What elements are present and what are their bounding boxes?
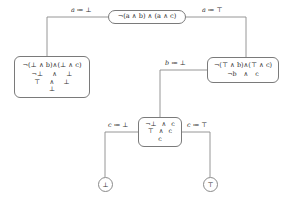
- node-a-true-step1: ¬b ∧ c: [227, 71, 259, 79]
- node-a-false-result: ⊥: [49, 86, 55, 94]
- edge-label-b-false-value: ⊥: [180, 59, 186, 67]
- node-a-false[interactable]: ¬(⊥ ∧ b)∧(⊥ ∧ c) ¬⊥ ∧ ⊥ ⊤ ∧ ⊥ ⊥: [14, 56, 90, 98]
- node-b-false[interactable]: ¬⊥ ∧ c ⊤ ∧ c c: [138, 117, 182, 147]
- terminal-true-label: ⊤: [207, 181, 213, 189]
- node-a-true-formula: ¬(⊤ ∧ b)∧(⊤ ∧ c): [214, 62, 272, 70]
- node-a-false-formula: ¬(⊥ ∧ b)∧(⊥ ∧ c): [23, 62, 82, 70]
- edge-label-c-false-op: ≔: [112, 121, 123, 129]
- edge-label-b-false: b ≔ ⊥: [165, 59, 186, 67]
- edge-label-c-true-op: ≔: [191, 121, 202, 129]
- edge-label-c-false-value: ⊥: [122, 121, 128, 129]
- edge-root-to-left: [47, 17, 108, 56]
- b-false-l2: ⊤: [148, 128, 154, 136]
- edge-layer: [0, 0, 291, 202]
- terminal-true[interactable]: ⊤: [203, 177, 218, 192]
- b-false-r2: c: [169, 128, 173, 136]
- node-root[interactable]: ¬(a ∧ b) ∧ (a ∧ c): [108, 10, 186, 24]
- a-true-left: ¬b: [227, 71, 236, 79]
- edge-root-to-right: [186, 17, 246, 57]
- step2-right: ⊥: [63, 79, 69, 87]
- edge-label-c-true-value: ⊤: [201, 121, 207, 129]
- edge-label-a-true: a ≔ ⊤: [202, 6, 223, 14]
- edge-label-a-false-op: ≔: [75, 6, 86, 14]
- edge-label-c-false: c ≔ ⊥: [108, 121, 128, 129]
- a-true-op: ∧: [244, 71, 249, 79]
- edge-label-a-true-value: ⊤: [216, 6, 222, 14]
- edge-right-to-mid: [160, 70, 207, 117]
- edge-label-c-true: c ≔ ⊤: [187, 121, 207, 129]
- terminal-false-label: ⊥: [102, 181, 108, 189]
- node-root-formula: ¬(a ∧ b) ∧ (a ∧ c): [118, 13, 177, 21]
- edge-label-a-true-op: ≔: [206, 6, 217, 14]
- edge-mid-to-false: [105, 132, 138, 177]
- diagram-canvas: ¬(a ∧ b) ∧ (a ∧ c) ¬(⊥ ∧ b)∧(⊥ ∧ c) ¬⊥ ∧…: [0, 0, 291, 202]
- node-b-false-result: c: [158, 136, 162, 144]
- edge-mid-to-true: [182, 132, 210, 177]
- a-true-right: c: [255, 71, 259, 79]
- terminal-false[interactable]: ⊥: [98, 177, 113, 192]
- edge-label-a-false-value: ⊥: [85, 6, 91, 14]
- step2-left: ⊤: [34, 79, 40, 87]
- edge-label-a-false: a ≔ ⊥: [71, 6, 92, 14]
- edge-label-b-false-op: ≔: [169, 59, 180, 67]
- node-a-true[interactable]: ¬(⊤ ∧ b)∧(⊤ ∧ c) ¬b ∧ c: [207, 57, 279, 83]
